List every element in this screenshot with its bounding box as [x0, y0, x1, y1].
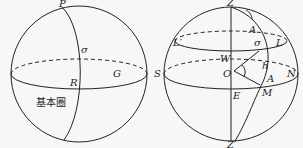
label-Z: Z [226, 0, 235, 8]
label-S: S [154, 68, 161, 79]
left-sphere: P σ R G 基本圈 [11, 0, 147, 142]
label-h: h [262, 60, 268, 71]
label-R: R [69, 77, 78, 88]
radius-to-star [234, 51, 259, 71]
label-W: W [220, 53, 231, 64]
label-O: O [223, 68, 231, 79]
fundamental-circle-front [11, 74, 147, 89]
label-sigma: σ [81, 44, 89, 55]
label-A-top: A [248, 24, 256, 35]
right-sphere: Z Z′ A σ L L′ W h S O N A M E [154, 0, 298, 148]
label-N: N [286, 68, 297, 79]
celestial-sphere-diagrams: P σ R G 基本圈 Z Z′ A σ L L′ W h S O N A [0, 0, 303, 148]
label-Z-prime: Z′ [226, 139, 237, 148]
fundamental-circle-back [11, 59, 147, 74]
label-fundamental-circle: 基本圈 [36, 96, 66, 108]
label-L: L [275, 37, 283, 48]
label-E: E [232, 90, 241, 101]
label-P: P [58, 0, 66, 9]
left-sphere-outline [11, 6, 147, 142]
label-sigma: σ [254, 37, 262, 48]
label-G: G [113, 68, 121, 79]
label-A: A [266, 73, 274, 84]
label-M: M [261, 87, 273, 98]
label-L-prime: L′ [172, 37, 183, 48]
meridian-through-P [62, 7, 80, 140]
radius-to-M [234, 71, 260, 85]
